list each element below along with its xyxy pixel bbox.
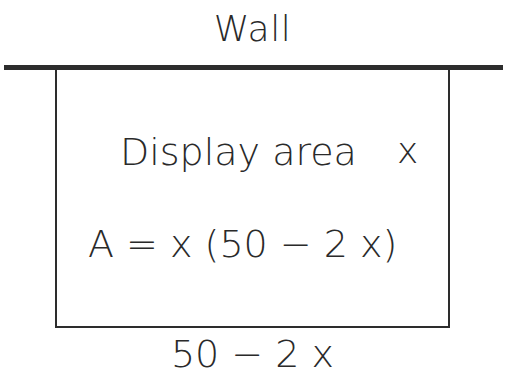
wall-label: Wall — [0, 8, 505, 49]
side-length-label: x — [397, 130, 418, 171]
display-area-label: Display area — [120, 130, 357, 174]
bottom-length-label: 50 − 2 x — [0, 332, 505, 376]
area-formula: A = x (50 − 2 x) — [88, 222, 397, 266]
display-area-rectangle — [55, 70, 450, 328]
